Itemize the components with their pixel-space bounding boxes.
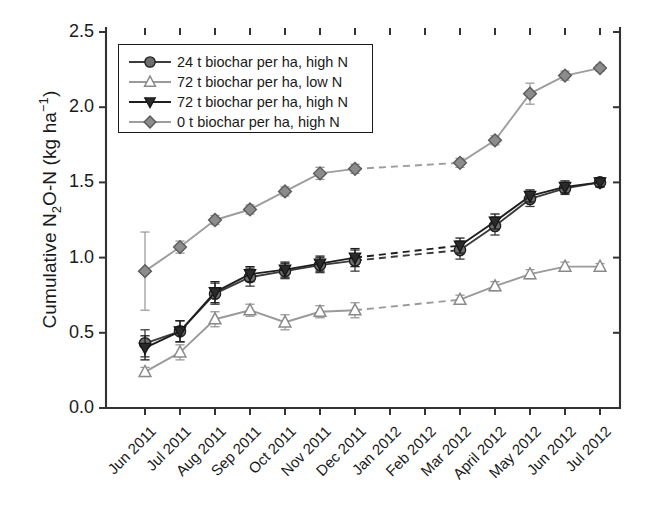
legend-marker-triangle-up-open-icon [127, 72, 173, 92]
legend-item-biochar_0_highN[interactable]: 0 t biochar per ha, high N [127, 112, 372, 132]
series-biochar_72_highN [139, 178, 605, 360]
series-biochar_72_lowN [139, 260, 606, 376]
legend-item-biochar_24_highN[interactable]: 24 t biochar per ha, high N [127, 52, 372, 72]
legend-item-biochar_72_highN[interactable]: 72 t biochar per ha, high N [127, 92, 372, 112]
legend-marker-circle-filled-icon [127, 52, 173, 72]
legend-marker-triangle-down-filled-icon [127, 92, 173, 112]
legend-label: 0 t biochar per ha, high N [177, 114, 340, 130]
y-tick-label: 0.5 [50, 322, 94, 343]
legend-label: 72 t biochar per ha, low N [177, 74, 342, 90]
y-tick-label: 2.0 [50, 96, 94, 117]
legend-label: 72 t biochar per ha, high N [177, 94, 348, 110]
legend-item-biochar_72_lowN[interactable]: 72 t biochar per ha, low N [127, 72, 372, 92]
legend-label: 24 t biochar per ha, high N [177, 54, 348, 70]
figure-container: Cumulative N2O-N (kg ha−1) 0.00.51.01.52… [0, 0, 651, 523]
y-tick-label: 1.5 [50, 171, 94, 192]
y-tick-label: 2.5 [50, 21, 94, 42]
y-tick-label: 1.0 [50, 247, 94, 268]
chart-legend: 24 t biochar per ha, high N72 t biochar … [118, 44, 373, 133]
series-biochar_24_highN [139, 177, 605, 357]
y-tick-label: 0.0 [50, 397, 94, 418]
legend-marker-diamond-filled-icon [127, 112, 173, 132]
